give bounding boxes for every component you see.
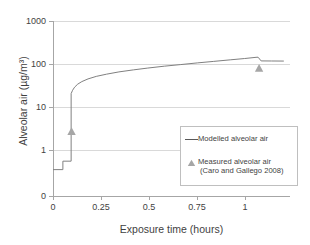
legend-item-measured: Measured alveolar air (Caro and Gallego … <box>185 157 294 176</box>
data-layer <box>0 0 310 245</box>
legend-label-modelled: Modelled alveolar air <box>198 134 268 144</box>
measured-point-marker <box>67 127 75 135</box>
legend-label-measured-line2: (Caro and Gallego 2008) <box>198 166 284 176</box>
chart-legend: Modelled alveolar air Measured alveolar … <box>180 126 298 186</box>
legend-label-measured: Measured alveolar air (Caro and Gallego … <box>198 157 284 176</box>
legend-line-icon <box>185 134 198 143</box>
measured-alveolar-air-markers <box>67 64 263 135</box>
legend-label-measured-line1: Measured alveolar air <box>198 157 271 166</box>
legend-item-modelled: Modelled alveolar air <box>185 134 294 144</box>
legend-triangle-icon <box>185 157 198 167</box>
measured-point-marker <box>255 64 263 72</box>
chart-container: 1000 100 10 1 0 0 0.25 0.5 0.75 1 Alveol… <box>0 0 310 245</box>
